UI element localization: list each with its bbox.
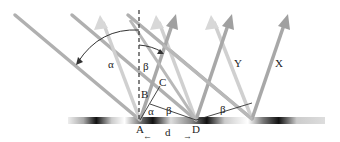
label-d: d	[165, 127, 171, 138]
label-alpha-bottom: α	[148, 106, 154, 117]
distance-d: ← d →	[143, 127, 195, 139]
arrow-left-icon: ←	[143, 131, 152, 141]
label-beta-AD: β	[166, 105, 172, 116]
label-beta: β	[143, 61, 149, 72]
label-Y: Y	[234, 58, 242, 69]
arrowheads	[166, 14, 290, 30]
arrowheads-light	[94, 15, 219, 30]
label-alpha: α	[108, 59, 114, 70]
arrow-right-icon: →	[183, 131, 192, 141]
label-C: C	[159, 77, 166, 88]
label-X: X	[275, 58, 283, 69]
label-B: B	[141, 89, 148, 100]
label-beta-D: β	[220, 104, 226, 115]
diffraction-diagram	[0, 0, 340, 142]
diffracted-rays	[140, 22, 285, 120]
